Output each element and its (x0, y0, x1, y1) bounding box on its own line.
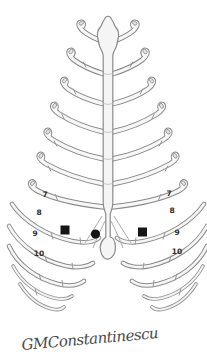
rib-label-left-8: 8 (36, 208, 41, 217)
ribcage-drawing: 7 8 9 10 7 8 9 10 GMConstantinescu (0, 0, 207, 364)
rib-label-right-8: 8 (169, 206, 174, 215)
ribs-right (111, 20, 207, 310)
markers (61, 226, 148, 239)
rib-label-left-7: 7 (42, 190, 47, 199)
left-square-marker-icon (61, 226, 70, 235)
ribs-left (9, 20, 105, 310)
center-dot-marker-icon (91, 229, 100, 238)
rib-label-left-10: 10 (34, 249, 44, 258)
rib-label-right-7: 7 (166, 189, 171, 198)
ribcage-figure: 7 8 9 10 7 8 9 10 GMConstantinescu (0, 0, 207, 364)
rib-label-left-9: 9 (32, 229, 37, 238)
rib-label-right-10: 10 (172, 247, 182, 256)
sternum (97, 16, 118, 259)
right-square-marker-icon (138, 228, 147, 237)
artist-signature: GMConstantinescu (21, 324, 159, 354)
rib-label-right-9: 9 (174, 228, 179, 237)
